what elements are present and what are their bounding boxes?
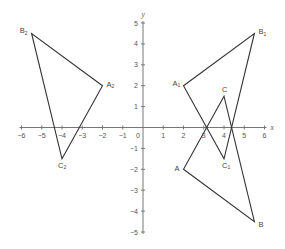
axes	[20, 21, 267, 234]
x-tick-label: 6	[263, 132, 267, 139]
vertex-label-b1: B1	[258, 27, 266, 37]
y-tick-label: 1	[134, 103, 138, 110]
axis-tick-labels: xy−6−5−4−3−2−11234560−5−4−3−2−112345	[18, 10, 275, 236]
x-tick-label: −2	[99, 132, 107, 139]
x-tick-label: 5	[242, 132, 246, 139]
vertex-label-b2: B2	[20, 26, 28, 36]
x-tick-label: −4	[58, 132, 66, 139]
x-tick-label: −3	[78, 132, 86, 139]
x-tick-label: −5	[38, 132, 46, 139]
y-tick-label: −3	[130, 187, 138, 194]
x-tick-label: 1	[161, 132, 165, 139]
vertex-label-a2: A2	[107, 80, 115, 90]
triangle-a1b1c1	[184, 34, 255, 159]
x-tick-label: 2	[182, 132, 186, 139]
x-tick-label: −1	[119, 132, 127, 139]
y-tick-label: 5	[134, 20, 138, 27]
x-tick-label: 4	[222, 132, 226, 139]
vertex-label-a: A	[175, 164, 180, 173]
vertex-label-c1: C1	[222, 161, 230, 171]
x-tick-label: −6	[18, 132, 26, 139]
vertex-label-b: B	[258, 220, 263, 229]
y-tick-label: −2	[130, 166, 138, 173]
vertex-label-c: C	[222, 85, 228, 94]
plot-canvas: xy−6−5−4−3−2−11234560−5−4−3−2−112345 ABC…	[0, 0, 285, 249]
triangle-a2b2c2	[32, 34, 103, 159]
y-tick-label: −1	[130, 145, 138, 152]
y-tick-label: −5	[130, 229, 138, 236]
y-tick-label: 3	[134, 61, 138, 68]
coordinate-plane-diagram: xy−6−5−4−3−2−11234560−5−4−3−2−112345 ABC…	[0, 0, 285, 249]
x-axis-label: x	[270, 123, 275, 132]
triangle-abc	[184, 96, 255, 221]
y-tick-label: 4	[134, 40, 138, 47]
origin-label: 0	[136, 132, 140, 139]
y-tick-label: 2	[134, 82, 138, 89]
y-tick-label: −4	[130, 208, 138, 215]
y-axis-label: y	[141, 10, 146, 19]
vertex-label-a1: A1	[173, 79, 181, 89]
vertex-label-c2: C2	[58, 161, 66, 171]
